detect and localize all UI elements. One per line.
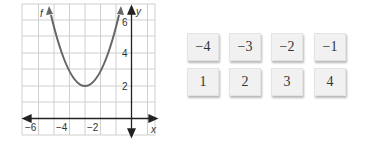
x-tick-label: −6	[25, 122, 37, 133]
y-axis-label: y	[135, 6, 142, 17]
tile-neg-4[interactable]: −4	[187, 33, 219, 61]
function-graph: f y x −6 −4 −2 6 4 2	[0, 0, 170, 141]
tile-1[interactable]: 1	[187, 68, 219, 96]
function-label: f	[40, 8, 44, 19]
tile-neg-1[interactable]: −1	[314, 33, 346, 61]
grid	[22, 4, 155, 135]
x-tick-label: −4	[56, 122, 68, 133]
x-axis-label: x	[150, 124, 157, 135]
x-tick-label: −2	[87, 122, 99, 133]
axes	[23, 6, 157, 137]
y-tick-label: 4	[122, 48, 128, 59]
tile-3[interactable]: 3	[271, 68, 303, 96]
curve-arrow-left	[46, 6, 53, 15]
tile-neg-3[interactable]: −3	[229, 33, 261, 61]
y-tick-label: 6	[122, 17, 128, 28]
y-tick-label: 2	[122, 81, 128, 92]
tile-neg-2[interactable]: −2	[271, 33, 303, 61]
curve-arrow-right	[117, 6, 124, 15]
tile-4[interactable]: 4	[314, 68, 346, 96]
tile-2[interactable]: 2	[229, 68, 261, 96]
